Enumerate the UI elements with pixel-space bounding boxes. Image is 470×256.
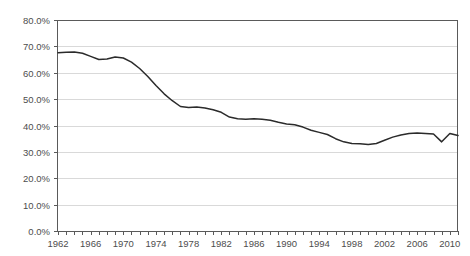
- x-axis-tick-labels: 1962196619701974197819821986199019941998…: [47, 238, 460, 249]
- y-axis-tick-label: 30.0%: [23, 147, 50, 158]
- x-axis-tick-label: 1962: [47, 238, 68, 249]
- line-chart-plot: 80.0%70.0%60.0%50.0%40.0%30.0%20.0%10.0%…: [0, 0, 470, 256]
- y-axis-tick-label: 40.0%: [23, 121, 50, 132]
- y-axis-tick-label: 50.0%: [23, 94, 50, 105]
- x-axis-tick-label: 1994: [309, 238, 330, 249]
- data-series-line: [58, 52, 458, 145]
- x-axis-tick-label: 1970: [113, 238, 134, 249]
- y-axis-tick-label: 80.0%: [23, 15, 50, 26]
- y-axis-tick-label: 70.0%: [23, 41, 50, 52]
- x-axis-tick-label: 1978: [178, 238, 199, 249]
- chart-figure: 80.0%70.0%60.0%50.0%40.0%30.0%20.0%10.0%…: [0, 0, 470, 256]
- x-axis-tick-label: 1990: [276, 238, 297, 249]
- y-axis-tick-label: 60.0%: [23, 68, 50, 79]
- x-axis-tick-label: 1986: [243, 238, 264, 249]
- y-axis-tick-label: 10.0%: [23, 200, 50, 211]
- x-axis-tick-label: 1974: [145, 238, 166, 249]
- x-axis-tick-label: 2006: [407, 238, 428, 249]
- x-axis-tick-label: 1998: [341, 238, 362, 249]
- y-axis-tick-label: 0.0%: [28, 226, 50, 237]
- x-axis-tick-label: 1982: [211, 238, 232, 249]
- y-axis-tick-labels: 80.0%70.0%60.0%50.0%40.0%30.0%20.0%10.0%…: [23, 15, 50, 237]
- x-axis-tick-label: 2010: [439, 238, 460, 249]
- x-axis-tick-label: 2002: [374, 238, 395, 249]
- x-axis-tick-label: 1966: [80, 238, 101, 249]
- y-axis-tick-label: 20.0%: [23, 173, 50, 184]
- gridlines: [54, 21, 458, 232]
